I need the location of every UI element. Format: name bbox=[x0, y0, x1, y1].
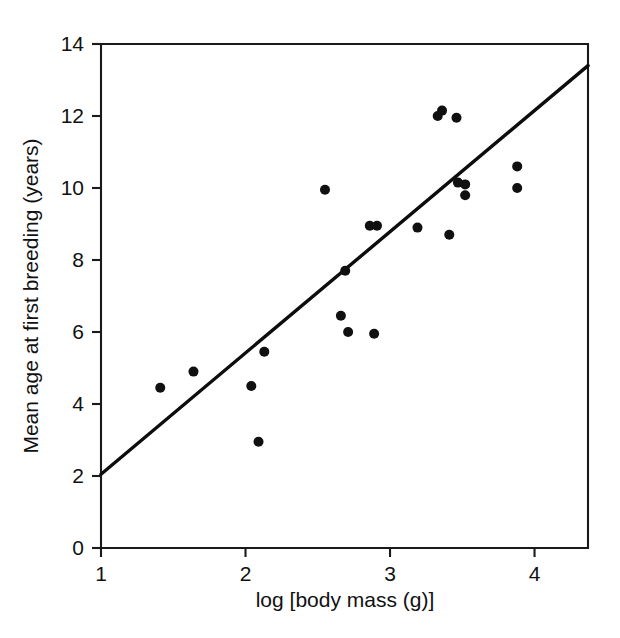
data-point bbox=[512, 161, 522, 171]
y-tick-label: 4 bbox=[72, 392, 84, 415]
y-tick-label: 14 bbox=[61, 32, 85, 55]
data-point bbox=[320, 185, 330, 195]
data-point bbox=[155, 383, 165, 393]
data-point bbox=[246, 381, 256, 391]
y-axis-tick-labels: 02468101214 bbox=[61, 32, 85, 559]
y-tick-label: 2 bbox=[72, 464, 84, 487]
x-axis-tick-labels: 1234 bbox=[95, 562, 541, 585]
y-axis-ticks bbox=[92, 44, 101, 548]
scatter-plot: 02468101214 1234 log [body mass (g)] Mea… bbox=[0, 0, 620, 638]
y-tick-label: 0 bbox=[72, 536, 84, 559]
data-point bbox=[369, 329, 379, 339]
y-tick-label: 10 bbox=[61, 176, 84, 199]
x-axis-ticks bbox=[101, 548, 535, 557]
frame-box bbox=[101, 44, 588, 548]
data-point bbox=[336, 311, 346, 321]
plot-frame bbox=[101, 44, 588, 548]
x-tick-label: 2 bbox=[240, 562, 252, 585]
data-point bbox=[512, 183, 522, 193]
y-tick-label: 12 bbox=[61, 104, 84, 127]
data-point bbox=[444, 230, 454, 240]
data-point bbox=[254, 437, 264, 447]
data-point bbox=[372, 221, 382, 231]
y-tick-label: 6 bbox=[72, 320, 84, 343]
data-point bbox=[343, 327, 353, 337]
figure-container: 02468101214 1234 log [body mass (g)] Mea… bbox=[0, 0, 620, 638]
data-point bbox=[259, 347, 269, 357]
data-point bbox=[340, 266, 350, 276]
data-point bbox=[451, 113, 461, 123]
x-axis-title: log [body mass (g)] bbox=[256, 588, 435, 611]
data-point bbox=[437, 106, 447, 116]
x-tick-label: 4 bbox=[529, 562, 541, 585]
data-point bbox=[460, 179, 470, 189]
x-tick-label: 1 bbox=[95, 562, 107, 585]
x-tick-label: 3 bbox=[384, 562, 396, 585]
y-tick-label: 8 bbox=[72, 248, 84, 271]
y-axis-title: Mean age at first breeding (years) bbox=[19, 138, 42, 453]
data-point bbox=[460, 190, 470, 200]
data-point bbox=[412, 223, 422, 233]
data-point bbox=[188, 367, 198, 377]
